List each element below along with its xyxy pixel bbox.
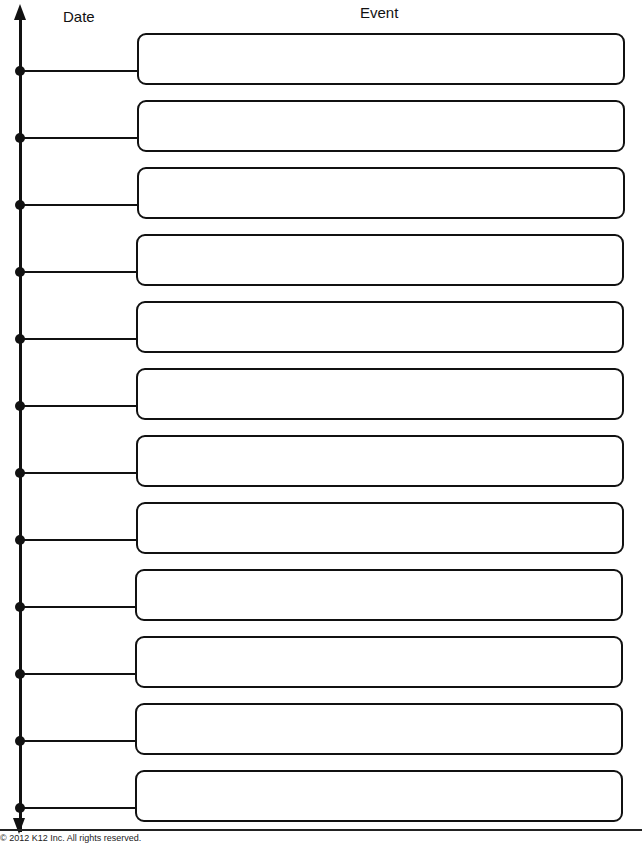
date-entry[interactable] <box>30 248 130 270</box>
event-box[interactable] <box>136 502 624 554</box>
date-entry[interactable] <box>30 315 130 337</box>
timeline-dot-icon <box>15 66 25 76</box>
connector-line <box>20 472 137 474</box>
event-box[interactable] <box>136 301 624 353</box>
timeline-dot-icon <box>15 267 25 277</box>
event-text[interactable] <box>147 711 611 747</box>
connector-line <box>20 405 137 407</box>
event-box[interactable] <box>135 770 623 822</box>
connector-line <box>20 70 138 72</box>
arrow-up-icon <box>14 4 26 20</box>
event-text[interactable] <box>148 242 612 278</box>
event-column-header: Event <box>360 4 398 21</box>
date-entry[interactable] <box>30 516 130 538</box>
event-box[interactable] <box>135 569 623 621</box>
date-entry[interactable] <box>30 449 130 471</box>
date-entry[interactable] <box>30 47 130 69</box>
connector-line <box>20 673 136 675</box>
connector-line <box>20 137 138 139</box>
timeline-dot-icon <box>15 468 25 478</box>
date-column-header: Date <box>63 8 95 25</box>
connector-line <box>20 606 136 608</box>
date-entry[interactable] <box>30 382 130 404</box>
footer-divider <box>0 829 642 831</box>
connector-line <box>20 204 138 206</box>
event-box[interactable] <box>137 167 625 219</box>
connector-line <box>20 740 136 742</box>
event-box[interactable] <box>137 33 625 85</box>
event-text[interactable] <box>149 41 613 77</box>
timeline-dot-icon <box>15 803 25 813</box>
timeline-dot-icon <box>15 535 25 545</box>
event-text[interactable] <box>147 577 611 613</box>
event-box[interactable] <box>135 636 623 688</box>
event-box[interactable] <box>135 703 623 755</box>
timeline-dot-icon <box>15 334 25 344</box>
date-entry[interactable] <box>30 114 130 136</box>
event-text[interactable] <box>149 175 613 211</box>
event-box[interactable] <box>137 100 625 152</box>
event-text[interactable] <box>149 108 613 144</box>
timeline-dot-icon <box>15 669 25 679</box>
timeline-dot-icon <box>15 200 25 210</box>
event-text[interactable] <box>148 443 612 479</box>
event-text[interactable] <box>147 644 611 680</box>
timeline-dot-icon <box>15 602 25 612</box>
date-entry[interactable] <box>30 717 130 739</box>
date-entry[interactable] <box>30 784 130 806</box>
event-text[interactable] <box>148 309 612 345</box>
event-text[interactable] <box>148 376 612 412</box>
connector-line <box>20 807 136 809</box>
timeline-dot-icon <box>15 401 25 411</box>
event-box[interactable] <box>136 435 624 487</box>
connector-line <box>20 539 137 541</box>
event-box[interactable] <box>136 368 624 420</box>
event-text[interactable] <box>147 778 611 814</box>
connector-line <box>20 338 137 340</box>
timeline-dot-icon <box>15 736 25 746</box>
connector-line <box>20 271 137 273</box>
timeline-dot-icon <box>15 133 25 143</box>
arrow-down-icon <box>13 818 25 834</box>
date-entry[interactable] <box>30 583 130 605</box>
date-entry[interactable] <box>30 181 130 203</box>
event-text[interactable] <box>148 510 612 546</box>
date-entry[interactable] <box>30 650 130 672</box>
event-box[interactable] <box>136 234 624 286</box>
copyright-text: © 2012 K12 Inc. All rights reserved. <box>0 833 141 843</box>
